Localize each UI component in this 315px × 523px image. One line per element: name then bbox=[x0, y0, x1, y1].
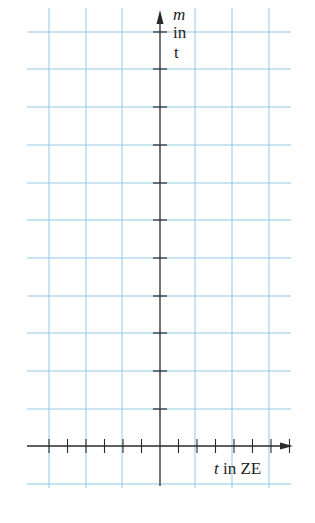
y-axis-variable-label: m bbox=[173, 6, 185, 23]
x-axis-label: t in ZE bbox=[214, 460, 261, 477]
axes bbox=[27, 10, 293, 486]
y-axis-unit-label-t: t bbox=[174, 44, 179, 61]
x-axis-variable-label: t bbox=[214, 459, 219, 478]
coordinate-grid bbox=[0, 0, 315, 523]
y-axis-unit-label-in: in bbox=[173, 24, 186, 41]
x-axis-unit-label: in ZE bbox=[223, 459, 261, 478]
grid-lines bbox=[27, 8, 291, 488]
